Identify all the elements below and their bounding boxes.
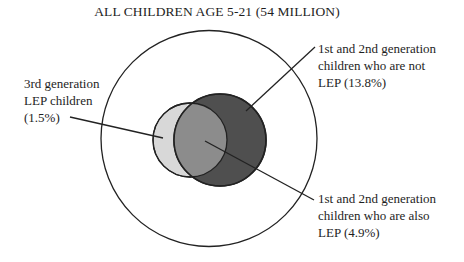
label-line: children who are also [318, 207, 436, 224]
label-also-lep: 1st and 2nd generation children who are … [318, 190, 436, 241]
label-line: LEP (13.8%) [318, 74, 436, 91]
label-not-lep: 1st and 2nd generation children who are … [318, 40, 436, 91]
label-line: (1.5%) [24, 109, 99, 126]
label-line: LEP children [24, 92, 99, 109]
label-line: children who are not [318, 57, 436, 74]
label-line: 1st and 2nd generation [318, 40, 436, 57]
label-third-gen-lep: 3rd generation LEP children (1.5%) [24, 75, 99, 126]
label-line: LEP (4.9%) [318, 224, 436, 241]
label-line: 1st and 2nd generation [318, 190, 436, 207]
label-line: 3rd generation [24, 75, 99, 92]
